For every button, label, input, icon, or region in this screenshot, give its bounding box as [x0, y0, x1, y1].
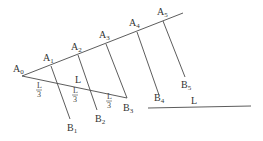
label-b1: B1 — [67, 122, 78, 135]
label-l-main: L — [75, 74, 81, 85]
svg-text:3: 3 — [73, 95, 77, 104]
svg-text:3: 3 — [107, 101, 111, 110]
ray-a0-a5 — [22, 13, 183, 76]
parallel-a4-b4 — [137, 32, 159, 95]
segment-l — [148, 106, 251, 108]
label-b5: B5 — [181, 79, 192, 92]
svg-text:3: 3 — [37, 90, 41, 99]
fraction-3: L 3 — [106, 92, 112, 110]
label-l-standalone: L — [191, 95, 197, 106]
fraction-2: L 3 — [72, 86, 78, 104]
parallel-a3-b3 — [106, 44, 127, 98]
segment-division-diagram: A0 A1 A2 A3 A4 A5 B1 B2 B3 B4 B5 L L 3 L… — [0, 0, 263, 141]
label-a5: A5 — [157, 6, 168, 19]
svg-text:L: L — [37, 81, 42, 90]
label-a2: A2 — [71, 41, 82, 54]
parallel-a1-b1 — [51, 66, 70, 119]
parallel-a5-b5 — [163, 21, 185, 77]
label-a3: A3 — [99, 29, 110, 42]
fraction-1: L 3 — [36, 81, 42, 99]
label-a0: A0 — [13, 63, 24, 76]
label-a1: A1 — [43, 52, 54, 65]
label-b2: B2 — [95, 113, 106, 126]
svg-text:L: L — [107, 92, 112, 101]
svg-text:L: L — [73, 86, 78, 95]
label-a4: A4 — [129, 17, 140, 30]
label-b3: B3 — [123, 102, 134, 115]
label-b4: B4 — [154, 92, 165, 105]
